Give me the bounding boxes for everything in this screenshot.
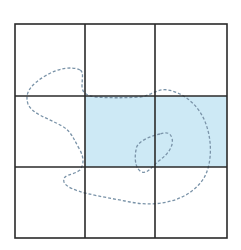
shaded-cell-r1-c2 <box>155 96 227 167</box>
grid-diagram <box>0 0 241 250</box>
shaded-cell-r1-c1 <box>85 96 155 167</box>
